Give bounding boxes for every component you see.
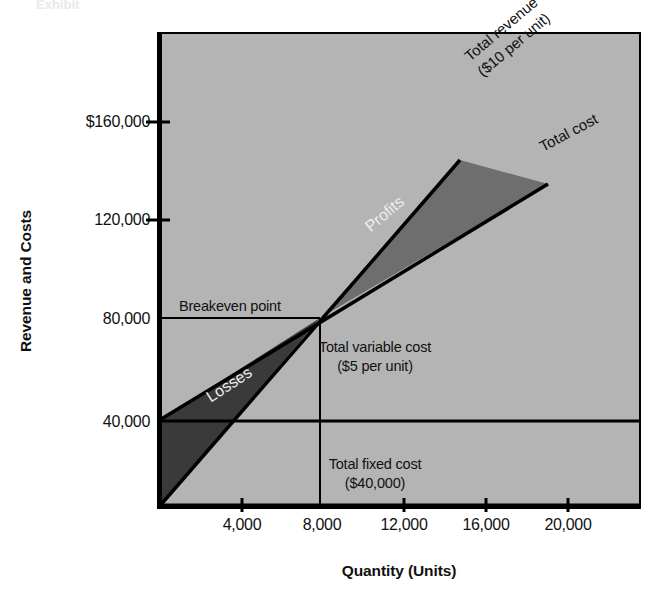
total-fixed-cost-sublabel: ($40,000) (285, 474, 465, 492)
total-variable-cost-label: Total variable cost (285, 338, 465, 356)
breakeven-chart: Exhibit Revenue and Costs Quantity (Unit… (0, 0, 660, 597)
total-variable-cost-sublabel: ($5 per unit) (285, 357, 465, 375)
plot-area: Total revenue ($10 per unit) Total cost … (0, 0, 660, 597)
breakeven-point-label: Breakeven point (179, 297, 281, 315)
total-fixed-cost-label: Total fixed cost (285, 455, 465, 473)
